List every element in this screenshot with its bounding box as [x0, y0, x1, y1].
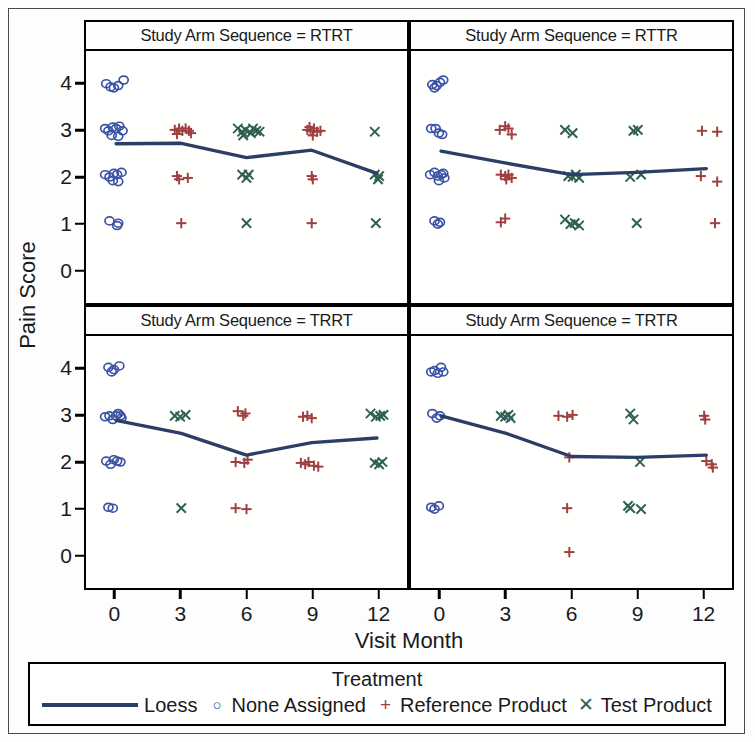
- legend: Treatment Loess○None Assigned+Reference …: [28, 662, 726, 726]
- series-none-assigned: [427, 363, 448, 513]
- y-tick-mark: [75, 367, 84, 370]
- legend-title: Treatment: [30, 666, 724, 692]
- y-tick-label: 4: [42, 71, 72, 95]
- y-axis-title: Pain Score: [15, 241, 41, 349]
- scatter-plot-trtr: [411, 336, 732, 588]
- x-tick-label: 6: [566, 602, 578, 626]
- legend-entry-none-assigned[interactable]: ○None Assigned: [208, 691, 366, 719]
- y-tick-label: 1: [42, 212, 72, 236]
- series-none-assigned: [101, 76, 129, 229]
- y-tick-label: 3: [42, 403, 72, 427]
- y-tick-label: 2: [42, 165, 72, 189]
- legend-entry-reference-product[interactable]: +Reference Product: [377, 691, 567, 719]
- panel-title-rttr: Study Arm Sequence = RTTR: [411, 22, 732, 51]
- plus-icon: [696, 171, 706, 181]
- plus-icon: [241, 504, 251, 514]
- x-tick-mark: [636, 590, 639, 599]
- x-tick-label: 3: [175, 602, 187, 626]
- panel-plot-rttr: [411, 51, 732, 303]
- panel-grid: Study Arm Sequence = RTRT Study Arm Sequ…: [84, 20, 734, 590]
- y-tick-label: 1: [42, 497, 72, 521]
- x-tick-mark: [179, 590, 182, 599]
- y-tick-mark: [75, 82, 84, 85]
- panel-trtr: Study Arm Sequence = TRTR: [409, 305, 734, 590]
- plus-icon: [176, 218, 186, 228]
- legend-items: Loess○None Assigned+Reference Product✕Te…: [30, 691, 724, 719]
- y-tick-mark: [75, 555, 84, 558]
- circle-open-icon: [438, 131, 447, 139]
- legend-label: Test Product: [601, 691, 712, 719]
- legend-label: Loess: [144, 691, 197, 719]
- plus-icon: [183, 173, 193, 183]
- circle-open-icon: ○: [208, 691, 225, 719]
- x-tick-label: 3: [500, 602, 512, 626]
- y-tick-mark: [75, 270, 84, 273]
- panel-trrt: Study Arm Sequence = TRRT: [84, 305, 409, 590]
- plus-icon: [230, 503, 240, 513]
- y-tick-mark: [75, 414, 84, 417]
- series-reference-product: [230, 406, 323, 514]
- series-test-product: [560, 125, 645, 230]
- loess-line: [441, 416, 706, 458]
- panel-rttr: Study Arm Sequence = RTTR: [409, 20, 734, 305]
- x-tick-label: 12: [692, 602, 715, 626]
- plus-icon: [186, 128, 196, 138]
- cross-icon: ✕: [578, 691, 595, 719]
- cross-icon: [632, 219, 641, 228]
- plus-icon: [567, 410, 577, 420]
- y-tick-label: 4: [42, 356, 72, 380]
- scatter-plot-rttr: [411, 51, 732, 303]
- y-tick-mark: [75, 176, 84, 179]
- panel-title-trtr: Study Arm Sequence = TRTR: [411, 307, 732, 336]
- x-tick-label: 12: [367, 602, 390, 626]
- y-tick-label: 0: [42, 544, 72, 568]
- plus-icon: [240, 408, 250, 418]
- loess-line: [116, 143, 377, 173]
- plus-icon: [710, 218, 720, 228]
- plus-icon: +: [377, 691, 394, 719]
- x-tick-mark: [113, 590, 116, 599]
- legend-entry-test-product[interactable]: ✕Test Product: [578, 691, 712, 719]
- cross-icon: [636, 504, 645, 513]
- panel-title-rtrt: Study Arm Sequence = RTRT: [86, 22, 407, 51]
- series-test-product: [170, 409, 388, 513]
- x-tick-mark: [504, 590, 507, 599]
- y-tick-mark: [75, 223, 84, 226]
- scatter-plot-rtrt: [86, 51, 407, 303]
- x-tick-label: 9: [307, 602, 319, 626]
- legend-entry-loess[interactable]: Loess: [42, 691, 197, 719]
- series-test-product: [496, 409, 646, 514]
- x-tick-mark: [311, 590, 314, 599]
- plus-icon: [233, 406, 243, 416]
- x-tick-label: 9: [632, 602, 644, 626]
- x-tick-mark: [570, 590, 573, 599]
- plus-icon: [562, 412, 572, 422]
- plus-icon: [697, 126, 707, 136]
- plus-icon: [238, 411, 248, 421]
- loess-line-icon: [42, 703, 138, 707]
- panel-rtrt: Study Arm Sequence = RTRT: [84, 20, 409, 305]
- panel-title-trrt: Study Arm Sequence = TRRT: [86, 307, 407, 336]
- x-tick-mark: [245, 590, 248, 599]
- cross-icon: [370, 127, 379, 136]
- circle-open-icon: [119, 76, 128, 84]
- plus-icon: [562, 503, 572, 513]
- plus-icon: [564, 547, 574, 557]
- x-tick-label: 0: [434, 602, 446, 626]
- y-tick-label: 0: [42, 259, 72, 283]
- scatter-plot-trrt: [86, 336, 407, 588]
- panel-plot-trrt: [86, 336, 407, 588]
- y-tick-mark: [75, 129, 84, 132]
- circle-open-icon: [435, 218, 444, 226]
- x-tick-label: 0: [109, 602, 121, 626]
- x-tick-mark: [702, 590, 705, 599]
- loess-line: [116, 420, 377, 455]
- panel-plot-trtr: [411, 336, 732, 588]
- x-axis-title: Visit Month: [84, 628, 734, 654]
- y-tick-mark: [75, 508, 84, 511]
- series-reference-product: [553, 410, 718, 557]
- plus-icon: [712, 177, 722, 187]
- cross-icon: [242, 219, 251, 228]
- x-axis: 036912036912: [84, 590, 734, 630]
- x-tick-label: 6: [241, 602, 253, 626]
